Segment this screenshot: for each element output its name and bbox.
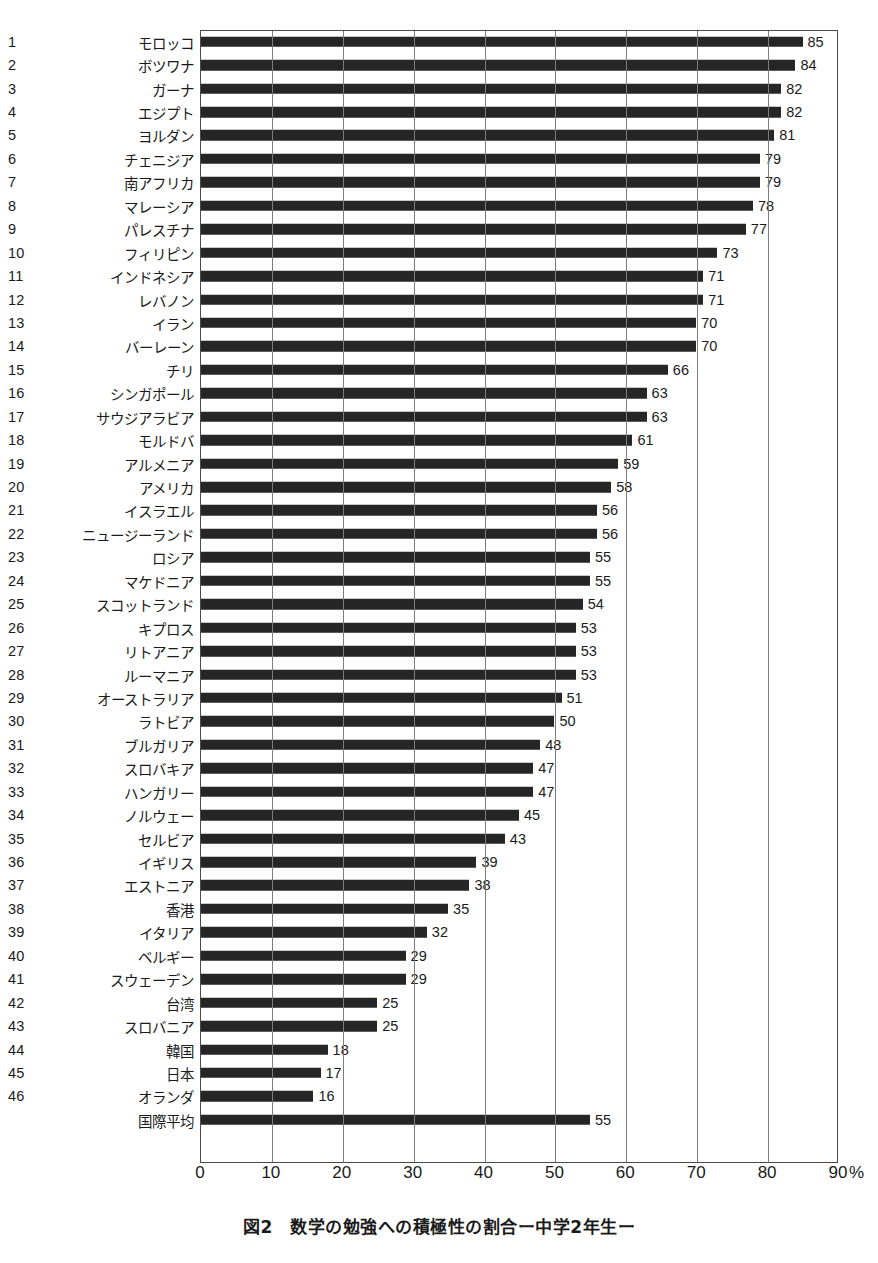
row-rank: 31	[8, 737, 48, 753]
row-bar-track: 70	[200, 335, 878, 358]
bar	[200, 458, 618, 469]
chart-row: 22ニュージーランド56	[0, 522, 878, 545]
row-rank: 41	[8, 971, 48, 987]
bar	[200, 247, 717, 258]
row-bar-track: 47	[200, 780, 878, 803]
x-axis-tick-label: 20	[332, 1163, 351, 1183]
row-bar-track: 54	[200, 593, 878, 616]
bar-value-label: 79	[760, 174, 781, 190]
bar	[200, 365, 668, 376]
x-axis-tick-label: 60	[616, 1163, 635, 1183]
row-category-label: 韓国	[52, 1039, 194, 1060]
chart-row: 27リトアニア53	[0, 639, 878, 662]
row-category-label: ノルウェー	[52, 805, 194, 826]
row-rank: 28	[8, 667, 48, 683]
chart-row: 38香港35	[0, 897, 878, 920]
bar	[200, 1068, 321, 1079]
row-bar-track: 29	[200, 968, 878, 991]
bar	[200, 786, 533, 797]
row-rank: 15	[8, 362, 48, 378]
bar	[200, 833, 505, 844]
bar-value-label: 79	[760, 151, 781, 167]
chart-row: 34ノルウェー45	[0, 803, 878, 826]
row-rank: 33	[8, 784, 48, 800]
bar-value-label: 50	[554, 713, 575, 729]
row-bar-track: 70	[200, 311, 878, 334]
bar-value-label: 29	[406, 948, 427, 964]
row-rank: 30	[8, 713, 48, 729]
bar-value-label: 70	[696, 315, 717, 331]
chart-row: 46オランダ16	[0, 1085, 878, 1108]
row-bar-track: 38	[200, 874, 878, 897]
x-axis-tick-label: 30	[403, 1163, 422, 1183]
row-rank: 4	[8, 104, 48, 120]
row-bar-track: 79	[200, 147, 878, 170]
row-category-label: 国際平均	[52, 1109, 194, 1130]
bar	[200, 622, 576, 633]
row-bar-track: 18	[200, 1038, 878, 1061]
row-bar-track: 39	[200, 850, 878, 873]
row-rank: 21	[8, 502, 48, 518]
chart-row: 32スロバキア47	[0, 757, 878, 780]
row-rank: 45	[8, 1065, 48, 1081]
bar-value-label: 25	[377, 995, 398, 1011]
row-bar-track: 85	[200, 30, 878, 53]
row-category-label: スロバニア	[52, 1016, 194, 1037]
bar	[200, 716, 554, 727]
bar-value-label: 56	[597, 526, 618, 542]
row-rank: 6	[8, 151, 48, 167]
bar-value-label: 47	[533, 760, 554, 776]
chart-row: 17サウジアラビア63	[0, 405, 878, 428]
row-category-label: シンガポール	[52, 383, 194, 404]
chart-row: 20アメリカ58	[0, 475, 878, 498]
bar	[200, 271, 703, 282]
bar	[200, 177, 760, 188]
bar	[200, 1115, 590, 1126]
row-bar-track: 45	[200, 803, 878, 826]
row-bar-track: 66	[200, 358, 878, 381]
row-category-label: ハンガリー	[52, 781, 194, 802]
bar-value-label: 85	[803, 34, 824, 50]
row-rank: 22	[8, 526, 48, 542]
bar-value-label: 77	[746, 221, 767, 237]
chart-row: 1モロッコ85	[0, 30, 878, 53]
bar-value-label: 55	[590, 573, 611, 589]
row-category-label: アメリカ	[52, 477, 194, 498]
row-category-label: マケドニア	[52, 570, 194, 591]
chart-subcaption	[0, 1251, 878, 1263]
chart-row: 13イラン70	[0, 311, 878, 334]
bar-value-label: 84	[795, 57, 816, 73]
row-rank: 25	[8, 596, 48, 612]
bar	[200, 693, 562, 704]
bar	[200, 154, 760, 165]
row-rank: 36	[8, 854, 48, 870]
bar-value-label: 18	[328, 1042, 349, 1058]
row-rank: 43	[8, 1018, 48, 1034]
row-rank: 16	[8, 385, 48, 401]
row-bar-track: 47	[200, 757, 878, 780]
row-rank: 7	[8, 174, 48, 190]
row-rank: 24	[8, 573, 48, 589]
bar-value-label: 45	[519, 807, 540, 823]
row-rank: 1	[8, 34, 48, 50]
row-category-label: イスラエル	[52, 500, 194, 521]
bar	[200, 130, 774, 141]
chart-row: 19アルメニア59	[0, 452, 878, 475]
bar	[200, 482, 611, 493]
row-bar-track: 56	[200, 499, 878, 522]
bar-value-label: 61	[632, 432, 653, 448]
bar	[200, 740, 540, 751]
row-bar-track: 53	[200, 616, 878, 639]
bar	[200, 880, 469, 891]
bar	[200, 997, 377, 1008]
row-category-label: マレーシア	[52, 195, 194, 216]
bar	[200, 974, 406, 985]
row-category-label: ロシア	[52, 547, 194, 568]
chart-row: 41スウェーデン29	[0, 968, 878, 991]
row-bar-track: 63	[200, 382, 878, 405]
chart-row: 9パレスチナ77	[0, 218, 878, 241]
row-bar-track: 25	[200, 991, 878, 1014]
chart-row: 15チリ66	[0, 358, 878, 381]
bar-value-label: 25	[377, 1018, 398, 1034]
x-axis: 0102030405060708090	[200, 1163, 838, 1193]
